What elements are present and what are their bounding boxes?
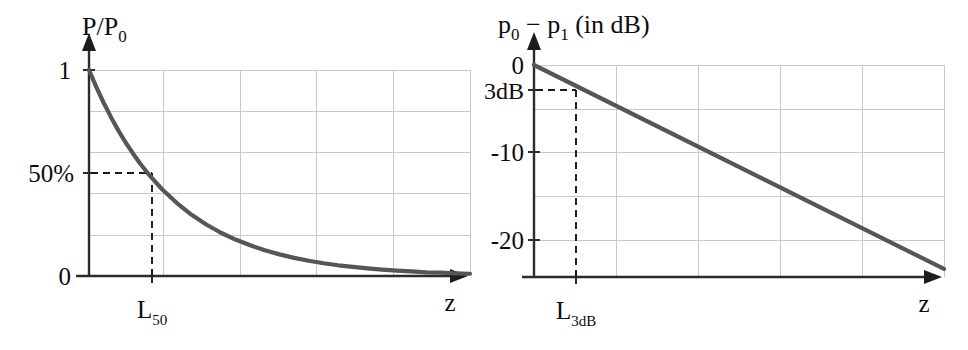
chart-panel-power-ratio: P/P0 1 50% 0 L50 z: [0, 0, 484, 350]
y-axis-title-db-loss: p0 − p1 (in dB): [498, 10, 650, 44]
vertical-gridlines: [163, 70, 470, 276]
y-tick-label-0: 0: [59, 263, 72, 290]
y-tick-label-minus10: -10: [491, 139, 524, 166]
x-axis-label-z: z: [444, 289, 455, 316]
power-ratio-svg: P/P0 1 50% 0 L50 z: [0, 0, 484, 350]
x-axis-arrow-icon: [450, 269, 468, 283]
guide-lines-50-percent: [91, 173, 152, 277]
x-axis-label-z: z: [918, 290, 929, 317]
power-decay-curve: [89, 70, 470, 274]
chart-panel-db-loss: p0 − p1 (in dB) 0 3dB -10 -20 L3dB z: [484, 0, 968, 350]
x-axis-db-loss: [522, 270, 942, 284]
horizontal-gridlines: [89, 70, 470, 235]
y-tick-label-minus20: -20: [491, 227, 524, 254]
y-tick-label-50-percent: 50%: [28, 160, 74, 187]
figure-root: P/P0 1 50% 0 L50 z: [0, 0, 968, 350]
db-loss-line: [534, 65, 944, 269]
db-loss-svg: p0 − p1 (in dB) 0 3dB -10 -20 L3dB z: [484, 0, 968, 350]
y-tick-label-3db: 3dB: [484, 78, 524, 104]
x-axis-arrow-icon: [924, 270, 942, 284]
horizontal-gridlines: [534, 65, 944, 240]
x-tick-label-L50: L50: [137, 296, 167, 328]
y-axis-title-power-ratio: P/P0: [82, 12, 127, 46]
y-tick-label-1: 1: [59, 57, 72, 84]
y-tick-label-0: 0: [512, 52, 525, 79]
x-tick-label-L3dB: L3dB: [556, 297, 596, 329]
guide-lines-3db: [536, 90, 576, 278]
